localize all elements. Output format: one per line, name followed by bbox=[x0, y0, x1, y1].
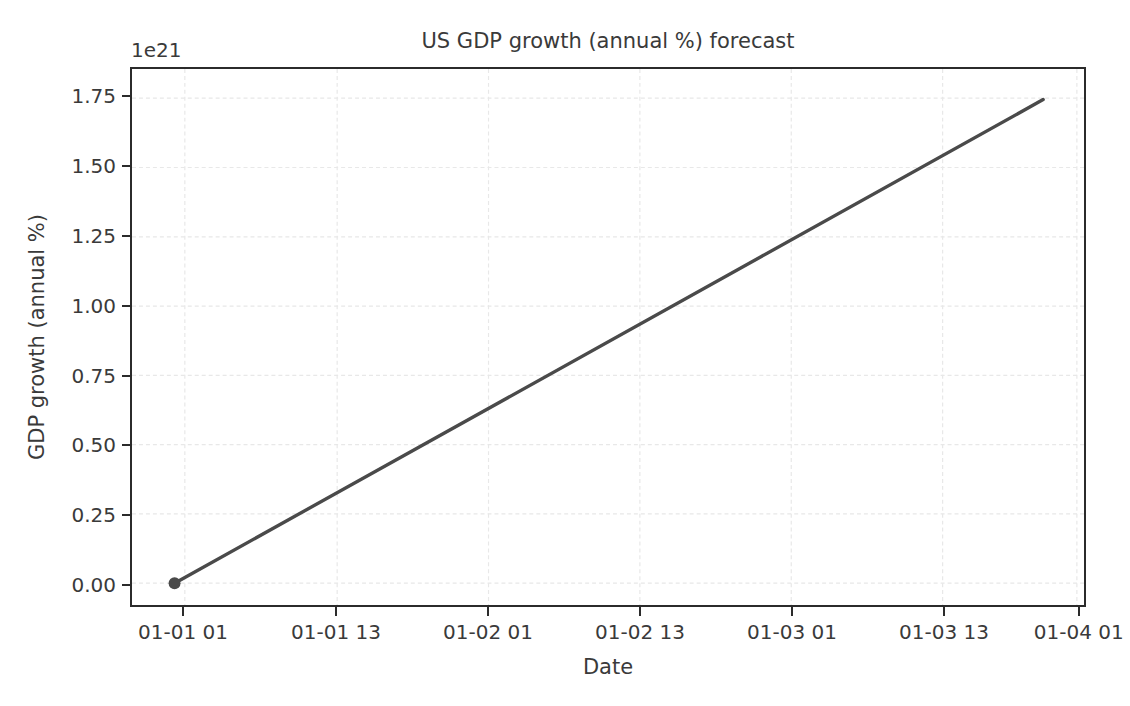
x-tick-mark bbox=[182, 607, 184, 616]
chart-figure: US GDP growth (annual %) forecast 1e21 0… bbox=[0, 0, 1130, 706]
x-tick-mark bbox=[335, 607, 337, 616]
plot-area bbox=[130, 67, 1086, 607]
x-tick-mark bbox=[639, 607, 641, 616]
x-tick-mark bbox=[791, 607, 793, 616]
x-tick-label: 01-02 13 bbox=[595, 620, 685, 644]
y-tick-label: 0.00 bbox=[71, 573, 116, 597]
y-tick-mark bbox=[122, 235, 130, 237]
y-axis-title: GDP growth (annual %) bbox=[22, 67, 52, 607]
x-tick-mark bbox=[487, 607, 489, 616]
y-tick-label: 1.25 bbox=[71, 224, 116, 248]
y-axis-offset-label: 1e21 bbox=[131, 38, 181, 62]
y-tick-mark bbox=[122, 95, 130, 97]
y-tick-label: 0.50 bbox=[71, 433, 116, 457]
y-tick-mark bbox=[122, 514, 130, 516]
y-tick-label: 1.50 bbox=[71, 154, 116, 178]
x-axis-title: Date bbox=[130, 655, 1086, 679]
y-tick-mark bbox=[122, 375, 130, 377]
x-tick-label: 01-03 13 bbox=[899, 620, 989, 644]
x-tick-label: 01-01 01 bbox=[138, 620, 228, 644]
x-tick-label: 01-04 01 bbox=[1034, 620, 1124, 644]
y-tick-label: 1.75 bbox=[71, 84, 116, 108]
y-tick-mark bbox=[122, 444, 130, 446]
x-tick-mark bbox=[943, 607, 945, 616]
x-tick-label: 01-01 13 bbox=[291, 620, 381, 644]
y-tick-mark bbox=[122, 165, 130, 167]
y-tick-label: 0.25 bbox=[71, 503, 116, 527]
page-title: US GDP growth (annual %) forecast bbox=[130, 29, 1086, 53]
y-tick-mark bbox=[122, 584, 130, 586]
x-tick-label: 01-02 01 bbox=[443, 620, 533, 644]
x-tick-label: 01-03 01 bbox=[747, 620, 837, 644]
data-series-layer bbox=[132, 69, 1084, 605]
y-tick-label: 1.00 bbox=[71, 294, 116, 318]
y-tick-label: 0.75 bbox=[71, 364, 116, 388]
y-tick-mark bbox=[122, 305, 130, 307]
x-tick-mark bbox=[1078, 607, 1080, 616]
